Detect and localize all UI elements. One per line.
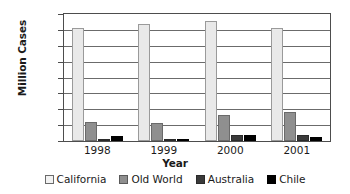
bar-group	[64, 14, 131, 141]
bar-group	[197, 14, 264, 141]
y-tick-mark	[58, 125, 63, 126]
x-tick-label: 1998	[64, 144, 131, 156]
x-tick-label: 1999	[131, 144, 198, 156]
chart-legend: CaliforniaOld WorldAustraliaChile	[0, 174, 350, 185]
legend-swatch-icon	[196, 175, 205, 184]
bar	[72, 28, 84, 142]
y-axis-title: Million Cases	[16, 3, 28, 113]
y-tick-mark	[58, 93, 63, 94]
bar	[85, 122, 97, 141]
bar	[310, 137, 322, 141]
legend-swatch-icon	[45, 175, 54, 184]
bar-group	[131, 14, 198, 141]
legend-swatch-icon	[267, 175, 276, 184]
legend-swatch-icon	[119, 175, 128, 184]
y-tick-mark	[58, 14, 63, 15]
y-tick-mark	[58, 30, 63, 31]
legend-item-chile[interactable]: Chile	[267, 174, 305, 185]
y-tick-mark	[58, 62, 63, 63]
x-tick-label: 2001	[264, 144, 331, 156]
legend-label: Old World	[131, 174, 182, 185]
bar	[151, 123, 163, 141]
x-axis-title: Year	[0, 157, 350, 169]
bar	[297, 135, 309, 141]
y-tick-mark	[58, 46, 63, 47]
bar	[244, 135, 256, 141]
bar	[138, 24, 150, 141]
bar	[111, 136, 123, 141]
bar	[271, 28, 283, 142]
bar-chart-figure: Million Cases 160140120100806040200 1998…	[0, 0, 350, 194]
bar-groups	[64, 14, 330, 141]
x-tick-label: 2000	[197, 144, 264, 156]
bar	[284, 112, 296, 141]
legend-label: Australia	[208, 174, 254, 185]
legend-label: California	[57, 174, 107, 185]
bar-group	[264, 14, 331, 141]
legend-label: Chile	[279, 174, 305, 185]
legend-item-california[interactable]: California	[45, 174, 107, 185]
bar	[177, 139, 189, 141]
legend-item-australia[interactable]: Australia	[196, 174, 254, 185]
bar	[164, 139, 176, 141]
y-tick-mark	[58, 78, 63, 79]
bar	[218, 115, 230, 141]
bar	[231, 135, 243, 141]
bar	[205, 21, 217, 141]
x-axis-ticks: 1998199920002001	[64, 144, 330, 156]
legend-item-old-world[interactable]: Old World	[119, 174, 182, 185]
y-tick-mark	[58, 141, 63, 142]
y-tick-mark	[58, 109, 63, 110]
bar	[98, 139, 110, 141]
